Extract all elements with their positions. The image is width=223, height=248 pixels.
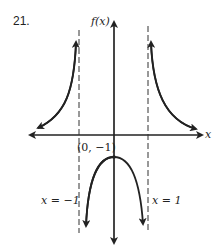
y-axis-label: f(x) (91, 15, 110, 28)
asymptote-right-label: x = 1 (152, 194, 181, 207)
asymptote-left-label: x = −1 (41, 194, 80, 207)
point-label: (0, −1) (77, 141, 116, 154)
x-axis-label: x (205, 128, 211, 141)
vertex-point (112, 155, 116, 159)
graph (0, 0, 223, 248)
